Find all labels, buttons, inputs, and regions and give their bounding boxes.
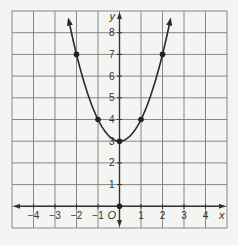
y-tick-label: 7 <box>109 49 115 60</box>
curve-arrow-icon <box>67 18 73 26</box>
data-point <box>74 52 80 58</box>
x-tick-label: 1 <box>138 210 144 221</box>
x-axis-left-arrow-icon <box>13 204 20 209</box>
x-tick-label: −4 <box>28 210 40 221</box>
x-tick-label: 2 <box>160 210 166 221</box>
x-tick-label: 4 <box>203 210 209 221</box>
y-tick-label: 1 <box>109 179 115 190</box>
y-tick-label: 4 <box>109 114 115 125</box>
data-point <box>160 52 166 58</box>
x-axis-right-arrow-icon <box>219 204 226 209</box>
y-axis-up-arrow-icon <box>117 12 122 19</box>
curve-arrow-icon <box>166 18 172 26</box>
origin-label: O <box>108 209 117 221</box>
y-axis-label: y <box>109 10 117 22</box>
data-point <box>138 117 144 123</box>
parabola-chart: −4−3−2−1123412345678 x y O <box>0 0 238 245</box>
y-tick-label: 8 <box>109 27 115 38</box>
y-tick-label: 6 <box>109 71 115 82</box>
x-tick-label: −1 <box>92 210 104 221</box>
y-tick-label: 5 <box>109 92 115 103</box>
x-axis-label: x <box>218 209 225 221</box>
x-tick-label: −3 <box>49 210 61 221</box>
y-tick-label: 2 <box>109 157 115 168</box>
data-point <box>117 138 123 144</box>
y-axis-down-arrow-icon <box>117 220 122 227</box>
x-tick-label: 3 <box>181 210 187 221</box>
data-point <box>95 117 101 123</box>
x-tick-label: −2 <box>71 210 83 221</box>
origin-point <box>117 204 123 210</box>
